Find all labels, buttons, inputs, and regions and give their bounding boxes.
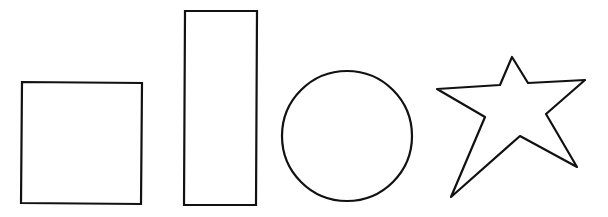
shapes-canvas bbox=[0, 0, 608, 217]
circle-shape bbox=[282, 71, 412, 201]
shapes-drawing bbox=[0, 0, 608, 217]
star-shape bbox=[437, 57, 585, 197]
rectangle-shape bbox=[184, 11, 257, 205]
square-shape bbox=[21, 82, 142, 204]
